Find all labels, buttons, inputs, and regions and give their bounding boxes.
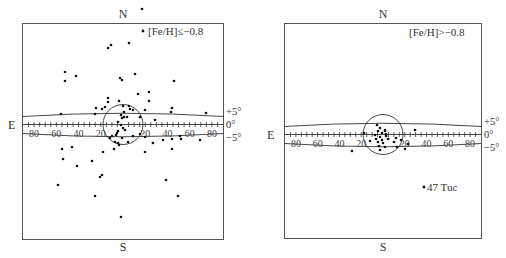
right-north-label: N [379,7,388,21]
data-point [141,8,144,11]
right-lat-label-minus5: −5° [484,142,499,153]
data-point [139,133,142,136]
data-point [101,174,104,177]
data-point [122,127,125,130]
data-point [144,109,147,112]
data-point [120,216,123,219]
data-point [171,138,174,141]
data-point [395,137,398,140]
longitude-tick-label: 60 [443,138,453,149]
left-north-label: N [119,7,128,21]
data-point [363,132,366,135]
data-point [173,80,176,83]
right-legend-label: [Fe/H]>−0.8 [409,26,465,38]
data-point [71,146,74,149]
data-point [64,80,67,83]
data-point [57,184,60,187]
data-point [148,100,151,103]
data-point [64,71,67,74]
data-point [171,107,174,110]
data-point [123,111,126,114]
data-point [384,130,387,133]
right-frame [285,24,482,239]
left-legend-label: [Fe/H]≤−0.8 [148,25,204,37]
data-point [378,145,381,148]
longitude-tick-label: 80 [465,138,475,149]
data-point [109,137,112,140]
data-point [205,112,208,115]
data-point [62,158,65,161]
longitude-tick-label: 20 [96,128,106,139]
data-point [119,77,122,80]
data-point [91,160,94,163]
data-point [107,101,110,104]
data-point [113,148,116,151]
data-point [120,124,123,127]
data-point [154,119,157,122]
data-point [99,176,102,179]
data-point [385,135,388,138]
data-point [144,151,147,154]
data-point [132,109,135,112]
data-point [400,139,403,142]
data-point [374,134,377,137]
data-point [396,146,399,149]
left-lat-label-minus5: −5° [226,132,241,143]
data-point [75,75,78,78]
left-lat-label-0: 0° [226,119,235,130]
data-point [121,79,124,82]
data-point [132,135,135,138]
data-point [144,136,147,139]
annotation-47tuc-marker [423,186,426,189]
data-point [123,116,126,119]
data-point [126,116,129,119]
data-point [95,107,98,110]
data-point [387,138,390,141]
data-point [114,141,117,144]
left-lat-label-plus5: +5° [226,106,241,117]
data-point [180,138,183,141]
data-point [104,106,107,109]
data-point [384,146,387,149]
data-point [170,111,173,114]
left-panel: 8060402020406080 N S E +5° 0° −5° [Fe/H]… [8,7,241,254]
right-lat-label-plus5: +5° [484,116,499,127]
data-point [379,149,382,152]
data-point [414,129,417,132]
data-point [94,195,97,198]
figure-canvas: 8060402020406080 N S E +5° 0° −5° [Fe/H]… [0,0,506,258]
longitude-tick-label: 40 [422,138,432,149]
data-point [379,136,382,139]
data-point [407,143,410,146]
longitude-tick-label: 60 [51,128,61,139]
data-point [162,139,165,142]
longitude-tick-label: 40 [334,138,344,149]
longitude-tick-label: 80 [207,128,217,139]
data-point [137,93,140,96]
data-point [127,141,130,144]
right-east-label: E [267,128,274,142]
right-lat-label-0: 0° [484,129,493,140]
data-point [107,97,110,100]
data-point [60,113,63,116]
data-point [177,195,180,198]
longitude-tick-label: 60 [185,128,195,139]
data-point [404,148,407,151]
right-lat-plus5-line [285,123,482,126]
data-point [76,165,79,168]
data-point [107,47,110,50]
data-point [117,142,120,145]
data-point [124,129,127,132]
data-point [122,105,125,108]
data-point [102,151,105,154]
right-panel: 8060402020406080 N S E +5° 0° −5° [Fe/H]… [267,7,499,254]
left-east-label: E [8,118,15,132]
longitude-tick-label: 80 [291,138,301,149]
data-point [116,132,119,135]
data-point [148,91,151,94]
data-point [377,130,380,133]
data-point [139,116,142,119]
left-lat-plus5-line [23,113,224,116]
data-point [128,42,131,45]
data-point [110,44,113,47]
